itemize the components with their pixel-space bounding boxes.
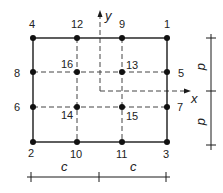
node-grid-diagram: 4 12 9 1 8 16 13 5 6 14 15 7 2 10 11 3 y… xyxy=(0,0,223,193)
dimension-label-c-right: c xyxy=(130,159,137,174)
label-1: 1 xyxy=(164,18,170,30)
point-6 xyxy=(30,104,36,110)
label-4: 4 xyxy=(29,18,35,30)
dashed-grid-lines xyxy=(33,14,185,142)
point-13 xyxy=(119,69,125,75)
point-5 xyxy=(164,69,170,75)
point-4 xyxy=(30,35,36,41)
point-9 xyxy=(119,35,125,41)
point-12 xyxy=(74,35,80,41)
label-7: 7 xyxy=(177,101,183,113)
dimension-label-d-lower: d xyxy=(195,118,210,126)
point-labels: 4 12 9 1 8 16 13 5 6 14 15 7 2 10 11 3 xyxy=(14,18,184,160)
label-8: 8 xyxy=(14,67,20,79)
point-3 xyxy=(164,139,170,145)
point-15 xyxy=(119,104,125,110)
point-1 xyxy=(164,35,170,41)
label-6: 6 xyxy=(14,101,20,113)
label-12: 12 xyxy=(71,18,83,30)
label-10: 10 xyxy=(70,148,82,160)
point-14 xyxy=(74,104,80,110)
y-axis-arrow-icon xyxy=(98,10,103,17)
point-10 xyxy=(74,139,80,145)
label-2: 2 xyxy=(28,147,34,159)
point-2 xyxy=(30,139,36,145)
label-13: 13 xyxy=(126,59,138,71)
point-8 xyxy=(30,69,36,75)
label-15: 15 xyxy=(126,110,138,122)
dimension-label-c-left: c xyxy=(61,159,68,174)
label-9: 9 xyxy=(119,18,125,30)
point-16 xyxy=(74,69,80,75)
point-11 xyxy=(119,139,125,145)
vertical-dimension xyxy=(206,34,216,150)
y-axis-label: y xyxy=(104,8,113,23)
dimension-label-d-upper: d xyxy=(195,63,210,71)
x-axis-arrow-icon xyxy=(184,89,191,94)
horizontal-dimension xyxy=(27,172,170,182)
label-11: 11 xyxy=(116,148,127,160)
label-5: 5 xyxy=(178,67,184,79)
label-16: 16 xyxy=(61,58,73,70)
label-14: 14 xyxy=(61,109,73,121)
point-7 xyxy=(164,104,170,110)
label-3: 3 xyxy=(163,148,169,160)
x-axis-label: x xyxy=(190,91,198,106)
